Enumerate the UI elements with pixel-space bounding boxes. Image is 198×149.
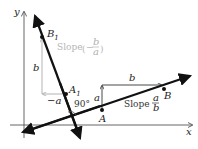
slope-den: b — [153, 102, 159, 113]
label-b1: B1 — [46, 28, 59, 42]
perp-slope-paren-open: ( — [82, 44, 86, 54]
y-axis-label: y — [13, 6, 20, 17]
perp-run-label: −a — [47, 95, 61, 106]
perp-rise-label: b — [33, 62, 39, 73]
slope-line-left-arrow — [23, 106, 100, 132]
slope-run-label: b — [129, 72, 135, 83]
perp-slope-paren-close: ) — [100, 44, 104, 54]
point-a — [100, 108, 104, 112]
label-b: B — [163, 90, 171, 101]
point-a1 — [64, 92, 68, 96]
point-b1 — [40, 35, 44, 39]
slope-rise-label: a — [94, 92, 100, 103]
perpendicular-lines-diagram: y x b −a Slope ( − b a ) a b Slope a b 9… — [0, 0, 198, 149]
label-a1: A1 — [68, 84, 81, 98]
perp-slope-word: Slope — [57, 42, 83, 52]
x-axis-label: x — [186, 126, 192, 137]
label-a: A — [98, 113, 106, 124]
perp-slope-den: a — [93, 46, 99, 57]
angle-label: 90° — [74, 99, 90, 109]
slope-word: Slope — [124, 99, 150, 109]
